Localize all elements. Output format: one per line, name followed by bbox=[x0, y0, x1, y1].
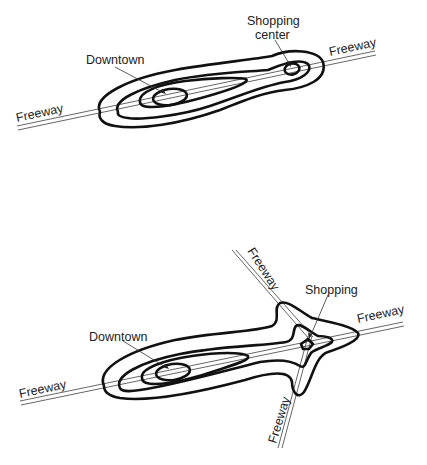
shopping-leader-bottom bbox=[310, 295, 328, 337]
label-freeway-right-bottom: Freeway bbox=[356, 302, 407, 326]
outer-contour-bottom bbox=[103, 302, 359, 398]
label-shopping-top-2: center bbox=[255, 28, 290, 42]
bottom-diagram: Downtown Shopping Freeway Freeway Freewa… bbox=[18, 245, 407, 448]
shopping-core-bottom bbox=[301, 339, 313, 349]
label-shopping-top-1: Shopping bbox=[247, 14, 300, 28]
label-downtown-top: Downtown bbox=[86, 53, 144, 67]
label-shopping-bottom: Shopping bbox=[305, 283, 358, 297]
label-freeway-left-bottom: Freeway bbox=[18, 377, 69, 401]
land-value-diagrams: Downtown Shopping center Freeway Freeway bbox=[0, 0, 427, 465]
label-downtown-bottom: Downtown bbox=[89, 330, 147, 344]
downtown-leader bbox=[115, 67, 164, 93]
top-diagram: Downtown Shopping center Freeway Freeway bbox=[15, 14, 379, 130]
label-freeway-bottom-bottom: Freeway bbox=[265, 394, 293, 445]
